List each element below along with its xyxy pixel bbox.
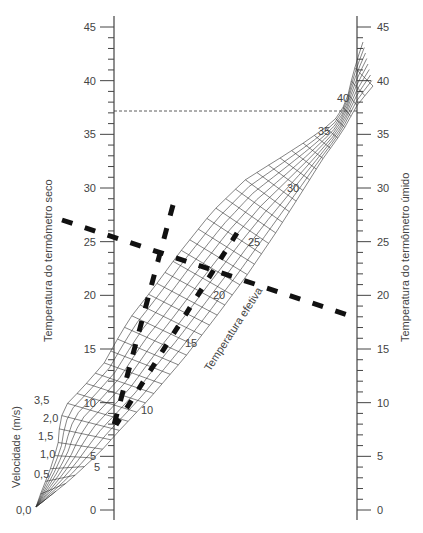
svg-text:3,5: 3,5: [34, 394, 49, 406]
right-tick-label: 35: [377, 128, 389, 140]
svg-text:40: 40: [337, 92, 349, 104]
right-tick-label: 5: [377, 450, 383, 462]
left-tick-label: 30: [84, 182, 96, 194]
right-tick-label: 15: [377, 343, 389, 355]
right-tick-label: 30: [377, 182, 389, 194]
svg-text:1,0: 1,0: [40, 448, 55, 460]
left-tick-label: 20: [84, 289, 96, 301]
left-tick-label: 25: [84, 236, 96, 248]
svg-text:1,5: 1,5: [38, 430, 53, 442]
right-axis-ticks: [357, 27, 371, 510]
svg-text:25: 25: [248, 236, 260, 248]
right-axis-title: Temperatura do termômetro úmido: [399, 173, 411, 342]
right-tick-label: 40: [377, 75, 389, 87]
svg-text:2,0: 2,0: [43, 412, 58, 424]
left-tick-label: 15: [84, 343, 96, 355]
svg-text:30: 30: [287, 182, 299, 194]
right-tick-label: 20: [377, 289, 389, 301]
right-tick-label: 45: [377, 21, 389, 33]
right-tick-label: 0: [377, 504, 383, 516]
right-tick-label: 10: [377, 397, 389, 409]
left-tick-label: 40: [84, 75, 96, 87]
svg-text:0,5: 0,5: [34, 468, 49, 480]
left-tick-label: 10: [84, 397, 96, 409]
right-tick-label: 25: [377, 236, 389, 248]
svg-text:35: 35: [318, 125, 330, 137]
svg-text:0,0: 0,0: [16, 504, 31, 516]
svg-text:10: 10: [141, 404, 153, 416]
velocity-labels: 0,0 0,5 1,0 1,5 2,0 3,5: [16, 394, 58, 516]
left-tick-label: 35: [84, 128, 96, 140]
right-axis-labels: 051015202530354045: [377, 21, 389, 516]
left-axis-ticks: [100, 27, 114, 510]
left-tick-label: 0: [90, 504, 96, 516]
svg-text:15: 15: [185, 337, 197, 349]
effective-temperature-reading-line-2: [116, 233, 237, 425]
velocity-title: Velocidade (m/s): [10, 406, 22, 488]
right-axis: 051015202530354045: [357, 16, 389, 520]
svg-text:20: 20: [213, 289, 225, 301]
left-axis: 051015202530354045: [84, 16, 114, 520]
left-tick-label: 45: [84, 21, 96, 33]
effective-temperature-mesh: [36, 42, 373, 507]
svg-text:5: 5: [94, 461, 100, 473]
left-axis-labels: 051015202530354045: [84, 21, 96, 516]
effective-temperature-nomogram: 051015202530354045 051015202530354045 10…: [0, 0, 423, 533]
left-axis-title: Temperatura do termômetro seco: [42, 179, 54, 342]
